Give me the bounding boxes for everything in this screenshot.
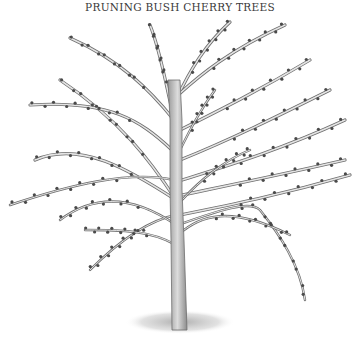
bud	[242, 47, 245, 50]
bud	[240, 207, 243, 210]
bud	[320, 179, 323, 182]
bud	[258, 38, 261, 41]
branch	[90, 215, 176, 270]
bud	[246, 147, 249, 150]
bud	[108, 111, 111, 114]
bud	[254, 128, 257, 131]
bud	[118, 64, 121, 67]
bud	[264, 224, 267, 227]
bud	[119, 231, 122, 234]
bud	[145, 234, 148, 237]
bud	[203, 180, 206, 183]
bud	[56, 150, 59, 153]
bud	[198, 59, 201, 62]
bud	[206, 48, 209, 51]
bud	[133, 76, 136, 79]
bud	[97, 226, 100, 229]
bud	[115, 179, 118, 182]
bud	[118, 164, 121, 167]
bud	[69, 214, 72, 217]
bud	[200, 104, 203, 107]
bud	[95, 105, 98, 108]
bud	[48, 156, 51, 159]
cherry-tree-illustration	[0, 0, 360, 339]
bud	[113, 62, 116, 65]
bud	[33, 193, 36, 196]
bud	[141, 153, 144, 156]
bud	[126, 200, 129, 203]
bud	[297, 185, 300, 188]
bud	[238, 214, 241, 217]
bud	[280, 22, 283, 25]
bud	[264, 30, 267, 33]
bud	[249, 154, 252, 157]
bud	[200, 112, 203, 115]
bud	[125, 135, 128, 138]
bud	[232, 159, 235, 162]
bud	[344, 172, 347, 175]
bud	[214, 38, 217, 41]
bud	[91, 103, 94, 106]
bud	[254, 218, 257, 221]
bud	[137, 206, 140, 209]
bud	[251, 89, 254, 92]
bud	[330, 164, 333, 167]
bud	[102, 202, 105, 205]
bud	[132, 232, 135, 235]
bud	[116, 111, 119, 114]
bud	[123, 227, 126, 230]
bud	[131, 140, 134, 143]
bud	[81, 43, 84, 46]
bud	[91, 200, 94, 203]
bud	[272, 146, 275, 149]
bud	[205, 172, 208, 175]
bud	[222, 165, 225, 168]
bud	[99, 255, 102, 258]
bud	[78, 181, 81, 184]
bud	[216, 29, 219, 32]
bud	[241, 129, 244, 132]
bud	[287, 192, 290, 195]
bud	[103, 53, 106, 56]
bud	[156, 45, 159, 48]
bud	[235, 152, 238, 155]
bud	[69, 154, 72, 157]
bud	[262, 119, 265, 122]
bud	[110, 245, 113, 248]
bud	[162, 68, 165, 71]
bud	[208, 39, 211, 42]
bud	[191, 129, 194, 132]
bud	[55, 187, 58, 190]
bud	[280, 78, 283, 81]
bud	[152, 33, 155, 36]
bud	[85, 207, 88, 210]
bud	[293, 167, 296, 170]
bud	[307, 169, 310, 172]
bud	[279, 237, 282, 240]
bud	[244, 97, 247, 100]
bud	[248, 39, 251, 42]
bud	[128, 119, 131, 122]
bud	[130, 236, 133, 239]
bud	[35, 155, 38, 158]
bud	[97, 52, 100, 55]
bud	[159, 56, 162, 59]
bud	[311, 186, 314, 189]
bud	[232, 98, 235, 101]
bud	[10, 200, 13, 203]
bud	[248, 220, 251, 223]
bud	[86, 44, 89, 47]
bud	[69, 188, 72, 191]
bud	[106, 231, 109, 234]
bud	[46, 194, 49, 197]
bud	[271, 172, 274, 175]
bud	[269, 79, 272, 82]
bud	[308, 136, 311, 139]
bud	[274, 30, 277, 33]
bud	[223, 28, 226, 31]
bud	[70, 35, 73, 38]
bud	[292, 259, 295, 262]
bud	[52, 101, 55, 104]
bud	[128, 74, 131, 77]
bud	[119, 202, 122, 205]
